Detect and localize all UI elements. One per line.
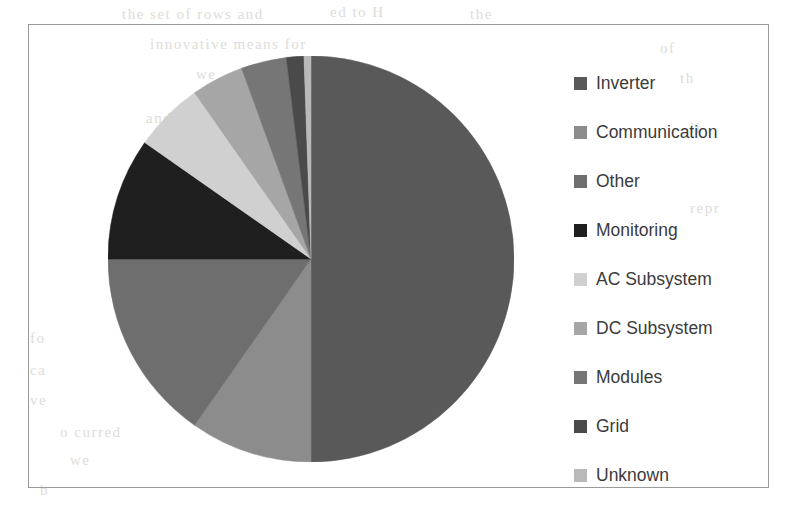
legend-swatch-icon <box>574 469 587 482</box>
legend-label: AC Subsystem <box>596 271 712 289</box>
pie-svg <box>108 56 514 462</box>
legend-label: Inverter <box>596 75 655 93</box>
legend-swatch-icon <box>574 420 587 433</box>
legend-item-monitoring: Monitoring <box>574 206 764 255</box>
pie-chart <box>108 56 514 462</box>
legend-item-ac-subsystem: AC Subsystem <box>574 255 764 304</box>
legend-label: Communication <box>596 124 718 142</box>
bleed-text: the <box>470 6 493 23</box>
chart-frame: InverterCommunicationOtherMonitoringAC S… <box>28 24 769 488</box>
legend-swatch-icon <box>574 175 587 188</box>
legend-item-modules: Modules <box>574 353 764 402</box>
legend-item-unknown: Unknown <box>574 451 764 500</box>
legend-label: Monitoring <box>596 222 678 240</box>
legend-label: Modules <box>596 369 662 387</box>
legend-swatch-icon <box>574 224 587 237</box>
plot-area: InverterCommunicationOtherMonitoringAC S… <box>29 25 768 487</box>
legend-item-dc-subsystem: DC Subsystem <box>574 304 764 353</box>
legend-swatch-icon <box>574 371 587 384</box>
legend-swatch-icon <box>574 322 587 335</box>
legend-swatch-icon <box>574 77 587 90</box>
legend-item-communication: Communication <box>574 108 764 157</box>
legend-label: Other <box>596 173 640 191</box>
legend-item-other: Other <box>574 157 764 206</box>
legend-item-inverter: Inverter <box>574 59 764 108</box>
legend-label: Unknown <box>596 467 669 485</box>
legend-item-grid: Grid <box>574 402 764 451</box>
chart-legend: InverterCommunicationOtherMonitoringAC S… <box>574 59 764 500</box>
bleed-text: the set of rows and <box>122 6 264 23</box>
pie-slice-inverter <box>311 56 514 462</box>
bleed-text: ed to H <box>330 4 385 21</box>
legend-label: DC Subsystem <box>596 320 713 338</box>
legend-label: Grid <box>596 418 629 436</box>
legend-swatch-icon <box>574 126 587 139</box>
legend-swatch-icon <box>574 273 587 286</box>
